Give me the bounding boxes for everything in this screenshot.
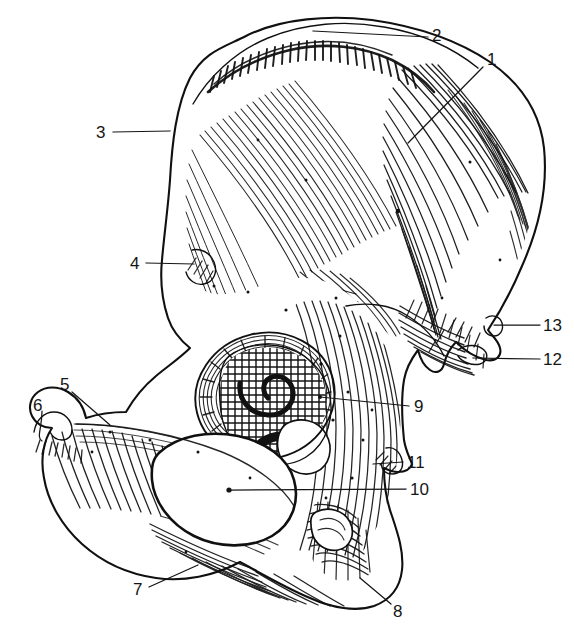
label-number-2: 2 — [432, 27, 441, 44]
label-number-5: 5 — [60, 376, 69, 393]
label-number-1: 1 — [487, 51, 496, 68]
leader-line-3 — [113, 131, 170, 132]
label-number-9: 9 — [414, 398, 423, 415]
label-number-8: 8 — [393, 603, 402, 620]
hip-bone-drawing — [0, 0, 574, 641]
label-number-13: 13 — [543, 317, 562, 334]
leader-dot-10 — [226, 487, 231, 492]
leader-dot-9 — [318, 395, 322, 399]
label-number-12: 12 — [543, 351, 562, 368]
label-number-11: 11 — [407, 454, 425, 471]
label-number-6: 6 — [33, 397, 42, 414]
anatomical-figure: 12345678910111213 — [0, 0, 574, 641]
label-number-4: 4 — [130, 255, 139, 272]
label-number-3: 3 — [96, 124, 105, 141]
label-number-10: 10 — [410, 481, 429, 498]
label-number-7: 7 — [133, 581, 142, 598]
